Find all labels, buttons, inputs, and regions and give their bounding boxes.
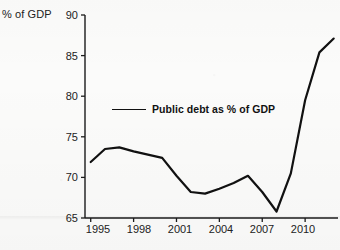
legend-line-swatch [112, 109, 146, 110]
axis-lines [85, 15, 338, 218]
chart-figure: % of GDP 90 85 80 75 70 65 1995 1998 200… [0, 0, 340, 250]
chart-legend: Public debt as % of GDP [112, 103, 275, 115]
legend-label-public-debt: Public debt as % of GDP [152, 103, 275, 115]
plot-area [0, 0, 340, 250]
data-line-public-debt [91, 39, 334, 212]
